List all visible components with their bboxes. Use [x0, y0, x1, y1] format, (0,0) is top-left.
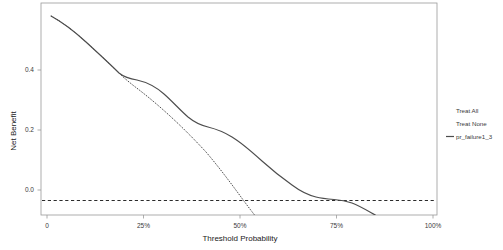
- decision-curve-figure: 0.4 0.2 0.0 Net Benefit 0 25% 50% 75% 10…: [0, 0, 503, 250]
- x-tick-label-25: 25%: [137, 222, 150, 229]
- y-tick-label-0-4: 0.4: [25, 66, 34, 73]
- x-tick-label-75: 75%: [330, 222, 343, 229]
- y-tick-label-0-0: 0.0: [25, 186, 34, 193]
- series-treat-all: [51, 16, 261, 223]
- x-axis-ticks: [47, 215, 433, 219]
- x-tick-label-50: 50%: [233, 222, 246, 229]
- y-tick-label-0-2: 0.2: [25, 126, 34, 133]
- chart-canvas: 0.4 0.2 0.0 Net Benefit 0 25% 50% 75% 10…: [0, 0, 503, 250]
- legend-label-treat-none: Treat None: [456, 120, 487, 127]
- x-tick-label-100: 100%: [425, 222, 442, 229]
- x-axis-title: Threshold Probability: [202, 234, 277, 243]
- legend-label-treat-all: Treat All: [456, 107, 478, 114]
- plot-frame: [41, 3, 437, 215]
- y-axis-ticks: [38, 70, 42, 190]
- x-tick-label-0: 0: [45, 222, 49, 229]
- legend-label-pr-failure1-3: pr_failure1_3: [456, 133, 493, 140]
- y-axis-title: Net Benefit: [9, 110, 18, 150]
- series-pr-failure1-3: [51, 16, 430, 242]
- chart-legend: Treat All Treat None pr_failure1_3: [446, 107, 493, 140]
